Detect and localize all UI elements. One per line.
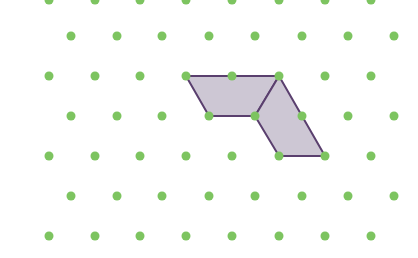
- dot-grid: [45, 0, 399, 241]
- grid-dot: [321, 232, 330, 241]
- grid-dot: [344, 32, 353, 41]
- grid-dot: [298, 192, 307, 201]
- grid-dot: [158, 192, 167, 201]
- grid-dot: [344, 112, 353, 121]
- grid-dot: [136, 232, 145, 241]
- grid-dot: [367, 72, 376, 81]
- grid-dot: [91, 72, 100, 81]
- grid-dot: [205, 32, 214, 41]
- grid-dot: [136, 0, 145, 5]
- grid-dot: [136, 152, 145, 161]
- grid-dot: [91, 232, 100, 241]
- grid-dot: [182, 0, 191, 5]
- grid-dot: [45, 152, 54, 161]
- grid-dot: [91, 152, 100, 161]
- grid-dot: [182, 152, 191, 161]
- grid-dot: [113, 32, 122, 41]
- grid-dot: [275, 0, 284, 5]
- grid-dot: [67, 192, 76, 201]
- grid-dot: [228, 0, 237, 5]
- grid-dot: [228, 232, 237, 241]
- grid-dot: [67, 32, 76, 41]
- grid-dot: [251, 192, 260, 201]
- grid-dot: [182, 72, 191, 81]
- grid-dot: [390, 32, 399, 41]
- grid-dot: [275, 152, 284, 161]
- grid-dot: [205, 112, 214, 121]
- grid-dot: [113, 112, 122, 121]
- grid-dot: [344, 192, 353, 201]
- grid-dot: [390, 192, 399, 201]
- isometric-dot-grid-diagram: [0, 0, 418, 258]
- grid-dot: [251, 112, 260, 121]
- grid-dot: [367, 0, 376, 5]
- grid-dot: [228, 72, 237, 81]
- grid-dot: [275, 232, 284, 241]
- grid-dot: [91, 0, 100, 5]
- grid-dot: [275, 72, 284, 81]
- grid-dot: [321, 0, 330, 5]
- grid-dot: [298, 32, 307, 41]
- grid-dot: [158, 32, 167, 41]
- grid-dot: [45, 0, 54, 5]
- grid-dot: [367, 152, 376, 161]
- grid-dot: [205, 192, 214, 201]
- grid-dot: [251, 32, 260, 41]
- grid-dot: [321, 152, 330, 161]
- grid-dot: [182, 232, 191, 241]
- grid-dot: [321, 72, 330, 81]
- grid-dot: [390, 112, 399, 121]
- grid-dot: [45, 72, 54, 81]
- grid-dot: [113, 192, 122, 201]
- grid-dot: [367, 232, 376, 241]
- grid-dot: [228, 152, 237, 161]
- grid-dot: [136, 72, 145, 81]
- grid-dot: [298, 112, 307, 121]
- grid-dot: [158, 112, 167, 121]
- grid-dot: [45, 232, 54, 241]
- grid-dot: [67, 112, 76, 121]
